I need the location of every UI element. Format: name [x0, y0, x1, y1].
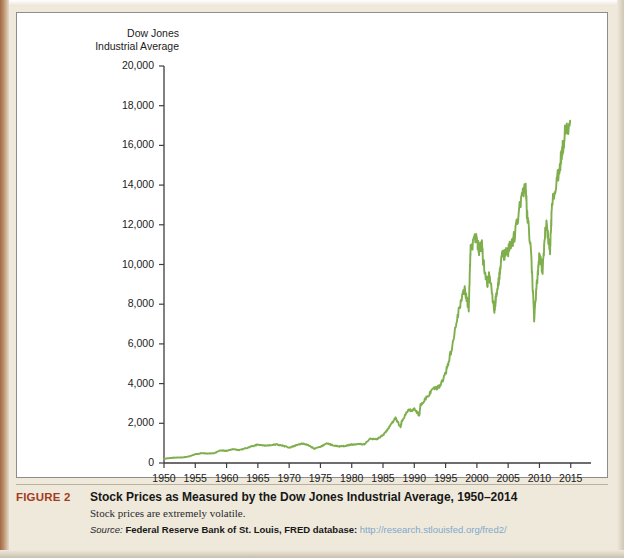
x-tick-label: 2000	[460, 472, 494, 484]
y-tick-label: 8,000	[96, 297, 154, 309]
x-tick-label: 2005	[491, 472, 525, 484]
chart-svg	[17, 13, 609, 479]
figure-caption-block: FIGURE 2 Stock Prices as Measured by the…	[16, 484, 608, 537]
x-tick-label: 1960	[210, 472, 244, 484]
x-tick-label: 2015	[554, 472, 588, 484]
figure-number-label: FIGURE 2	[16, 491, 90, 503]
page-bottom-edge	[0, 550, 624, 558]
x-tick-label: 1985	[366, 472, 400, 484]
y-tick-label: 18,000	[96, 99, 154, 111]
y-tick-label: 0	[96, 456, 154, 468]
y-tick-label: 10,000	[96, 258, 154, 270]
x-tick-label: 1995	[429, 472, 463, 484]
x-tick-label: 1970	[272, 472, 306, 484]
y-tick-label: 20,000	[96, 59, 154, 71]
figure-source-line: Source: Federal Reserve Bank of St. Loui…	[90, 523, 608, 537]
source-name: Federal Reserve Bank of St. Louis, FRED …	[125, 524, 357, 535]
x-tick-label: 1965	[241, 472, 275, 484]
x-tick-label: 1980	[335, 472, 369, 484]
source-url-link[interactable]: http://research.stlouisfed.org/fred2/	[360, 524, 507, 535]
caption-divider	[16, 484, 608, 485]
chart-panel: Dow Jones Industrial Average 02,0004,000…	[16, 12, 608, 478]
line-chart-plot: 02,0004,0006,0008,00010,00012,00014,0001…	[17, 13, 609, 479]
y-tick-label: 6,000	[96, 337, 154, 349]
page-right-edge	[617, 0, 624, 558]
x-tick-label: 1975	[303, 472, 337, 484]
source-word: Source:	[90, 524, 123, 535]
y-tick-label: 14,000	[96, 178, 154, 190]
y-tick-label: 2,000	[96, 416, 154, 428]
page-top-edge	[0, 0, 624, 6]
figure-title: Stock Prices as Measured by the Dow Jone…	[90, 490, 608, 505]
x-tick-label: 1950	[147, 472, 181, 484]
y-tick-label: 4,000	[96, 377, 154, 389]
page-left-edge	[0, 0, 9, 558]
figure-subtitle: Stock prices are extremely volatile.	[90, 506, 608, 521]
x-tick-label: 1990	[397, 472, 431, 484]
x-tick-label: 2010	[522, 472, 556, 484]
y-tick-label: 16,000	[96, 138, 154, 150]
y-tick-label: 12,000	[96, 218, 154, 230]
x-tick-label: 1955	[178, 472, 212, 484]
